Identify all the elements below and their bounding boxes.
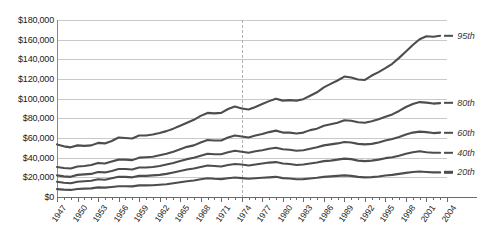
series-swatch-20th bbox=[444, 171, 453, 173]
series-swatch-40th bbox=[444, 152, 453, 154]
series-lines-group bbox=[0, 0, 487, 246]
series-label-40th: 40th bbox=[457, 148, 475, 158]
series-swatch-60th bbox=[444, 131, 453, 133]
income-percentile-line-chart: $0$20,000$40,000$60,000$80,000$100,000$1… bbox=[0, 0, 487, 246]
series-swatch-95th bbox=[444, 35, 453, 37]
series-swatch-80th bbox=[444, 102, 453, 104]
series-label-95th: 95th bbox=[457, 31, 475, 41]
series-label-60th: 60th bbox=[457, 128, 475, 138]
series-label-20th: 20th bbox=[457, 167, 475, 177]
series-line-95th bbox=[57, 36, 440, 148]
series-label-80th: 80th bbox=[457, 98, 475, 108]
series-line-20th bbox=[57, 171, 440, 189]
